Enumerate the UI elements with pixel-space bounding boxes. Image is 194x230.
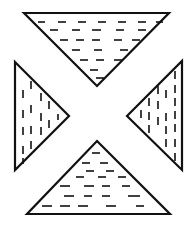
triangle-left <box>15 62 69 170</box>
triangle-right <box>127 61 182 170</box>
hatched-triangles-diagram <box>0 0 194 230</box>
triangle-outline <box>127 61 182 170</box>
triangle-bottom <box>27 141 170 214</box>
triangle-top <box>24 13 169 86</box>
